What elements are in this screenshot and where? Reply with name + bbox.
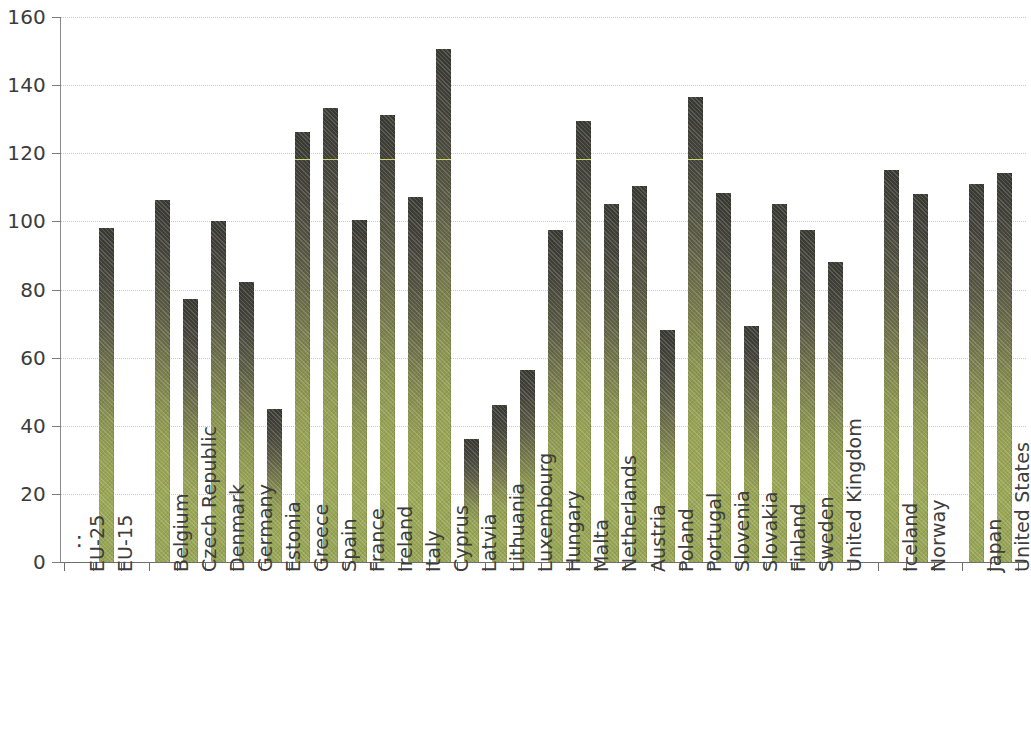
x-axis-label: Denmark — [226, 484, 248, 572]
bar[interactable] — [352, 220, 367, 562]
missing-value-marker: : — [76, 529, 83, 551]
bar[interactable] — [380, 115, 395, 562]
x-axis-label: Ireland — [394, 506, 416, 572]
x-axis-label: Luxembourg — [534, 453, 556, 572]
x-axis-label: Latvia — [478, 514, 500, 572]
bar-highlight-line — [295, 159, 310, 161]
bar[interactable] — [436, 49, 451, 562]
x-axis-label: Belgium — [170, 493, 192, 572]
bar-highlight-line — [576, 159, 591, 161]
y-axis-tick — [52, 221, 61, 222]
x-axis-label: Cyprus — [450, 505, 472, 572]
x-axis-label: Slovenia — [731, 490, 753, 572]
y-axis-tick-label: 140 — [0, 73, 46, 97]
bar[interactable] — [155, 200, 170, 562]
bar-highlight-line — [436, 159, 451, 161]
y-axis-tick-label: 120 — [0, 141, 46, 165]
y-axis-tick — [52, 290, 61, 291]
x-axis-label: Poland — [675, 508, 697, 572]
x-axis-label: Finland — [787, 503, 809, 572]
y-axis-tick-label: 40 — [0, 414, 46, 438]
x-axis-label: Norway — [927, 499, 949, 572]
bar-highlight-line — [323, 159, 338, 161]
x-axis-label: Slovakia — [759, 491, 781, 572]
bar-highlight-line — [688, 159, 703, 161]
y-axis-tick — [52, 17, 61, 18]
x-axis-label: Iceland — [899, 503, 921, 572]
bar-chart: 020406080100120140160 EU-25EU-15BelgiumC… — [0, 0, 1031, 741]
x-axis-label: Estonia — [282, 501, 304, 572]
x-axis-label: Malta — [590, 519, 612, 572]
bar[interactable] — [969, 184, 984, 562]
bar[interactable] — [323, 108, 338, 562]
y-axis-tick — [52, 562, 61, 563]
bar[interactable] — [688, 97, 703, 562]
y-axis-tick-label: 160 — [0, 5, 46, 29]
x-axis-label: Netherlands — [618, 455, 640, 572]
x-axis-label: Greece — [310, 504, 332, 572]
x-axis-label: Hungary — [562, 490, 584, 572]
y-axis-tick — [52, 426, 61, 427]
y-axis-tick — [52, 358, 61, 359]
x-axis-label: United States — [1011, 442, 1031, 572]
x-axis-label: France — [366, 508, 388, 572]
x-axis-label: EU-15 — [114, 515, 136, 572]
y-axis-tick — [52, 494, 61, 495]
y-axis-tick-label: 20 — [0, 482, 46, 506]
bar-highlight-line — [380, 159, 395, 161]
x-axis-label: Sweden — [815, 496, 837, 572]
x-axis-label: Czech Republic — [198, 426, 220, 572]
x-axis-tick — [64, 562, 65, 571]
x-axis-label: Italy — [422, 530, 444, 572]
y-axis-tick — [52, 153, 61, 154]
bar[interactable] — [604, 204, 619, 562]
x-axis-tick — [149, 562, 150, 571]
y-axis-tick — [52, 85, 61, 86]
x-axis-label: Japan — [983, 519, 1005, 573]
bar[interactable] — [884, 170, 899, 562]
y-axis-tick-label: 100 — [0, 209, 46, 233]
bar[interactable] — [99, 228, 114, 562]
x-axis-label: Spain — [338, 518, 360, 572]
x-axis-label: United Kingdom — [843, 418, 865, 572]
x-axis-label: Lithuania — [506, 483, 528, 572]
x-axis-label: Portugal — [703, 493, 725, 573]
y-axis-tick-label: 0 — [0, 550, 46, 574]
x-axis-tick — [962, 562, 963, 571]
x-axis-label: Germany — [254, 484, 276, 572]
y-axis-tick-label: 80 — [0, 278, 46, 302]
bar[interactable] — [997, 173, 1012, 562]
x-axis-label: EU-25 — [86, 515, 108, 572]
y-axis-tick-label: 60 — [0, 346, 46, 370]
x-axis-label: Austria — [647, 504, 669, 572]
bar[interactable] — [295, 132, 310, 562]
x-axis-tick — [878, 562, 879, 571]
